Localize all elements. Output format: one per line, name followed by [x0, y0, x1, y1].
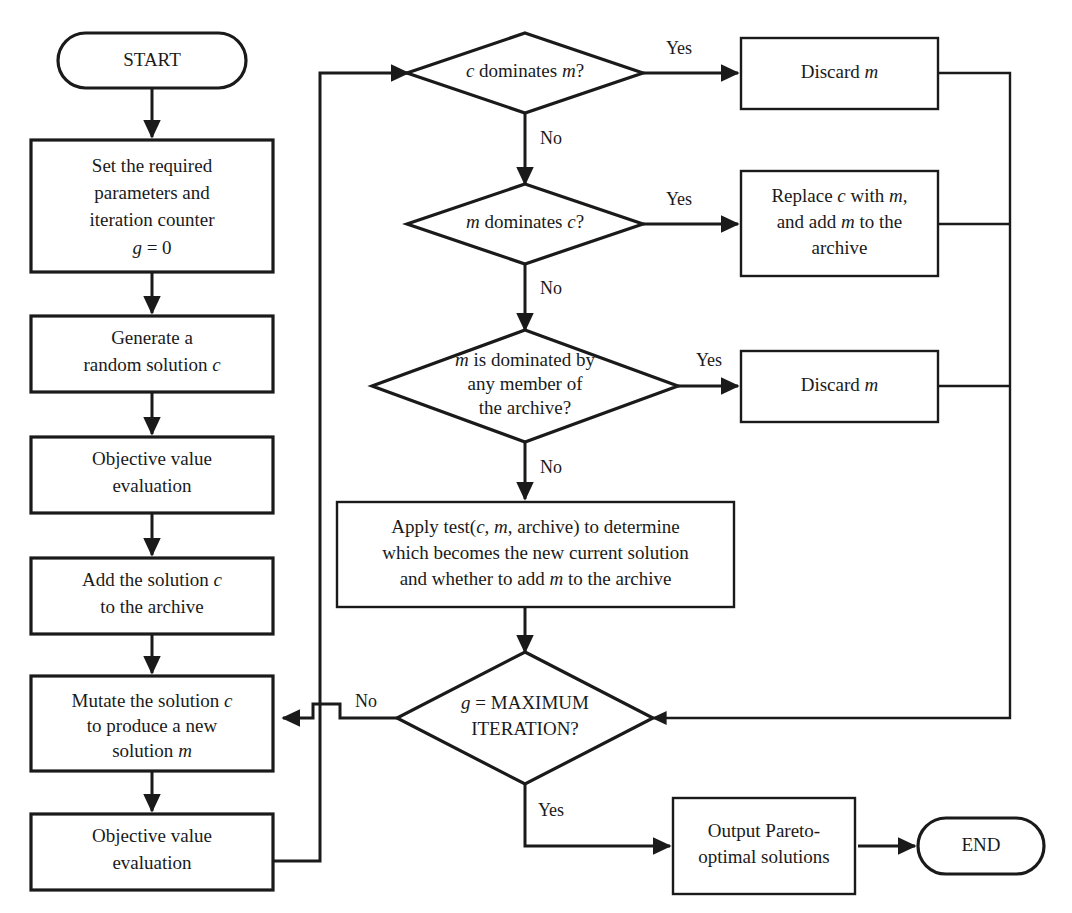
- node-mutate[interactable]: Mutate the solution c to produce a new s…: [31, 676, 273, 771]
- node-apply-test-line-1: which becomes the new current solution: [382, 542, 689, 563]
- node-discard-m-2-label: Discard m: [801, 374, 879, 395]
- edge-label-no-2: No: [540, 278, 562, 298]
- node-set-params-line-2: iteration counter: [89, 209, 215, 230]
- node-objective1-line-1: evaluation: [112, 475, 192, 496]
- node-objective2-line-1: evaluation: [112, 852, 192, 873]
- node-maxiter-line-1: ITERATION?: [471, 718, 579, 739]
- node-discard-m-1[interactable]: Discard m: [741, 38, 938, 109]
- node-mutate-line-1: to produce a new: [87, 715, 218, 736]
- node-generate-line-1: random solution c: [83, 354, 221, 375]
- edge-maxiter-no-to-mutate: [283, 704, 397, 718]
- edge-label-yes-2: Yes: [666, 189, 692, 209]
- node-decision3-line-1: any member of: [467, 373, 583, 394]
- node-add-solution[interactable]: Add the solution c to the archive: [31, 558, 273, 634]
- node-generate[interactable]: Generate a random solution c: [31, 316, 273, 392]
- node-start[interactable]: START: [58, 33, 246, 88]
- node-start-label: START: [123, 49, 181, 70]
- node-add-solution-line-0: Add the solution c: [82, 569, 222, 590]
- edge-label-yes-end: Yes: [538, 800, 564, 820]
- edge-label-yes-3: Yes: [696, 350, 722, 370]
- edge-label-no-1: No: [540, 128, 562, 148]
- node-objective1-line-0: Objective value: [92, 448, 212, 469]
- node-discard-m-2[interactable]: Discard m: [741, 351, 938, 422]
- node-decision-m-dominates-c[interactable]: m dominates c?: [407, 184, 643, 264]
- node-apply-test[interactable]: Apply test(c, m, archive) to determine w…: [337, 502, 734, 607]
- node-replace-line-1: and add m to the: [777, 211, 903, 232]
- node-output-pareto[interactable]: Output Pareto- optimal solutions: [673, 798, 855, 894]
- node-decision2-label: m dominates c?: [466, 211, 584, 232]
- node-output-line-0: Output Pareto-: [708, 820, 820, 841]
- node-decision1-label: c dominates m?: [466, 60, 584, 81]
- edge-label-no-3: No: [540, 457, 562, 477]
- node-decision-max-iteration[interactable]: g = MAXIMUM ITERATION?: [397, 652, 653, 784]
- node-replace-line-0: Replace c with m,: [771, 185, 907, 206]
- flowchart-svg: START Set the required parameters and it…: [0, 0, 1072, 913]
- node-apply-test-line-2: and whether to add m to the archive: [400, 568, 672, 589]
- edge-label-yes-1: Yes: [666, 38, 692, 58]
- node-set-params[interactable]: Set the required parameters and iteratio…: [31, 140, 273, 272]
- node-generate-line-0: Generate a: [111, 327, 193, 348]
- node-end[interactable]: END: [918, 818, 1044, 874]
- node-set-params-line-3: g = 0: [132, 237, 171, 258]
- node-mutate-line-2: solution m: [112, 740, 192, 761]
- node-set-params-line-0: Set the required: [92, 155, 213, 176]
- edge-label-no-loop: No: [355, 691, 377, 711]
- node-mutate-line-0: Mutate the solution c: [72, 690, 234, 711]
- node-maxiter-line-0: g = MAXIMUM: [461, 692, 589, 713]
- flowchart-canvas: START Set the required parameters and it…: [0, 0, 1072, 913]
- node-apply-test-line-0: Apply test(c, m, archive) to determine: [391, 516, 680, 538]
- node-decision-c-dominates-m[interactable]: c dominates m?: [407, 33, 643, 113]
- node-objective2-line-0: Objective value: [92, 825, 212, 846]
- node-decision3-line-0: m is dominated by: [455, 349, 595, 370]
- edge-objective2-to-decision1: [273, 73, 408, 861]
- node-end-label: END: [961, 834, 1000, 855]
- node-add-solution-line-1: to the archive: [100, 596, 203, 617]
- node-objective1[interactable]: Objective value evaluation: [31, 437, 273, 513]
- node-decision-m-dominated-archive[interactable]: m is dominated by any member of the arch…: [372, 330, 678, 442]
- node-output-line-1: optimal solutions: [698, 846, 829, 867]
- node-set-params-line-1: parameters and: [94, 182, 210, 203]
- node-replace-c-with-m[interactable]: Replace c with m, and add m to the archi…: [741, 171, 938, 276]
- node-replace-line-2: archive: [812, 237, 868, 258]
- node-decision3-line-2: the archive?: [479, 397, 571, 418]
- node-objective2[interactable]: Objective value evaluation: [31, 814, 273, 890]
- node-discard-m-1-label: Discard m: [801, 61, 879, 82]
